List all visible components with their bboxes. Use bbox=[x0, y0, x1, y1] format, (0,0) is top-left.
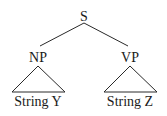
root-node-label: S bbox=[80, 9, 88, 24]
edge-s-np bbox=[40, 23, 84, 46]
vp-triangle bbox=[104, 66, 157, 92]
np-node-label: NP bbox=[29, 50, 47, 65]
vp-leaf-string: String Z bbox=[107, 94, 153, 109]
np-triangle bbox=[12, 66, 65, 92]
syntax-tree: S NP String Y VP String Z bbox=[0, 0, 167, 116]
vp-node-label: VP bbox=[121, 50, 139, 65]
edge-s-vp bbox=[84, 23, 128, 46]
np-leaf-string: String Y bbox=[14, 94, 61, 109]
